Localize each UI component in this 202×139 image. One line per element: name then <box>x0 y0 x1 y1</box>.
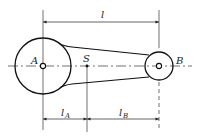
label-b: B <box>175 55 183 66</box>
center-of-mass-dot <box>86 65 89 68</box>
label-s: S <box>83 53 90 64</box>
rod-lower-edge <box>60 77 149 88</box>
diagram-svg: l A S B l A l B <box>0 0 202 139</box>
label-a: A <box>30 55 38 66</box>
label-l: l <box>101 9 104 20</box>
label-la-main: l <box>61 107 64 118</box>
connecting-rod-diagram: l A S B l A l B <box>0 0 202 139</box>
label-lb-main: l <box>119 107 122 118</box>
pin-a-icon <box>40 63 45 68</box>
label-la-sub: A <box>64 112 70 120</box>
pin-b-icon <box>156 63 161 68</box>
label-lb-sub: B <box>122 112 128 120</box>
rod-upper-edge <box>60 44 149 55</box>
